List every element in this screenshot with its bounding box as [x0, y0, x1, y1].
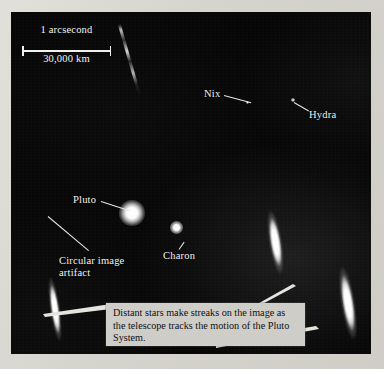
telescope-image-plate: 1 arcsecond 30,000 km Nix Hydra Pluto Ch…	[11, 12, 371, 354]
caption-leader-left	[41, 296, 111, 320]
scale-bar-rule	[22, 50, 111, 52]
label-hydra: Hydra	[309, 109, 336, 121]
leader-nix	[224, 95, 251, 103]
scale-bar-bottom-label: 30,000 km	[22, 53, 111, 64]
label-pluto: Pluto	[73, 194, 96, 206]
label-circular-image-artifact: Circular image artifact	[59, 255, 154, 279]
page-background: 1 arcsecond 30,000 km Nix Hydra Pluto Ch…	[0, 0, 384, 369]
label-charon: Charon	[163, 250, 195, 262]
pluto-disk-icon	[119, 200, 145, 226]
caption-callout: Distant stars make streaks on the image …	[106, 303, 305, 346]
star-streak-upper-right-icon	[264, 208, 287, 275]
leader-hydra	[294, 102, 309, 111]
charon-disk-icon	[170, 221, 183, 234]
star-streak-lower-right-icon	[335, 264, 361, 341]
label-nix: Nix	[204, 88, 220, 100]
caption-text: Distant stars make streaks on the image …	[113, 307, 289, 343]
leader-circular-image-artifact	[48, 216, 89, 251]
scale-bar-top-label: 1 arcsecond	[22, 24, 111, 35]
star-trail-faint-diagonal-icon	[118, 24, 141, 96]
leader-charon	[179, 242, 185, 250]
